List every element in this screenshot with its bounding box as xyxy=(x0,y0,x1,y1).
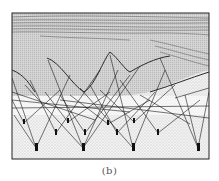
figure-illustration xyxy=(0,0,219,181)
figure-caption: (b) xyxy=(0,165,219,176)
plot-area xyxy=(12,13,209,159)
